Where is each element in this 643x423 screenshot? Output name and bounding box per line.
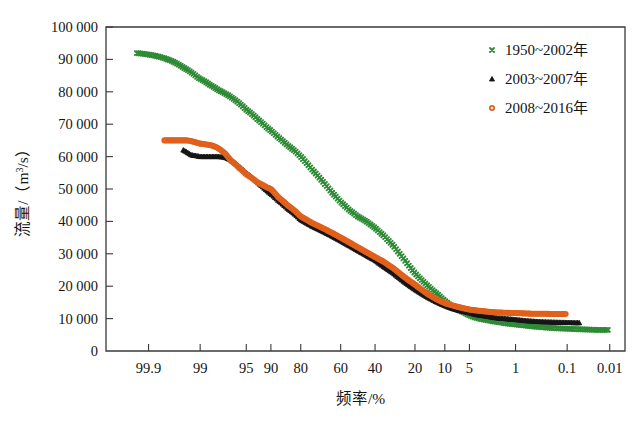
x-tick-label: 0.1 — [558, 360, 576, 376]
x-tick-label: 0.01 — [597, 360, 622, 376]
data-series-layer — [135, 51, 610, 332]
x-axis-title: 频率/% — [336, 390, 385, 407]
y-tick-label: 20 000 — [58, 278, 98, 294]
x-tick-label: 60 — [333, 360, 348, 376]
series-1 — [135, 51, 610, 332]
x-tick-label: 40 — [368, 360, 383, 376]
x-tick-label: 10 — [438, 360, 453, 376]
series-3 — [162, 138, 568, 316]
y-tick-label: 40 000 — [58, 213, 98, 229]
legend-label: 2003~2007年 — [505, 71, 588, 87]
x-tick-label: 80 — [293, 360, 308, 376]
svg-text:流量/（m3/s）: 流量/（m3/s） — [14, 141, 31, 237]
y-tick-label: 80 000 — [58, 84, 98, 100]
x-tick-label: 99.9 — [136, 360, 161, 376]
y-axis-ticks — [106, 27, 113, 319]
y-tick-label: 70 000 — [58, 116, 98, 132]
x-tick-label: 90 — [264, 360, 279, 376]
y-axis-title: 流量/（m3/s） — [14, 141, 31, 237]
data-point-x — [490, 48, 494, 52]
chart-legend: 1950~2002年2003~2007年2008~2016年 — [490, 42, 589, 116]
legend-label: 1950~2002年 — [505, 42, 588, 58]
y-tick-label: 10 000 — [58, 311, 98, 327]
y-axis-tick-labels: 010 00020 00030 00040 00050 00060 00070 … — [51, 19, 98, 359]
y-tick-label: 0 — [91, 343, 98, 359]
x-tick-label: 5 — [466, 360, 473, 376]
chart-figure: 010 00020 00030 00040 00050 00060 00070 … — [0, 0, 643, 423]
y-tick-label: 90 000 — [58, 51, 98, 67]
y-tick-label: 50 000 — [58, 181, 98, 197]
legend-label: 2008~2016年 — [505, 100, 588, 116]
data-point-circle — [490, 106, 494, 110]
x-tick-label: 95 — [239, 360, 254, 376]
x-tick-label: 99 — [193, 360, 208, 376]
legend-item-2[interactable]: 2003~2007年 — [490, 71, 589, 87]
y-tick-label: 100 000 — [51, 19, 98, 35]
x-axis-tick-labels: 99.99995908060402010510.10.01 — [136, 360, 623, 376]
x-tick-label: 20 — [408, 360, 423, 376]
flow-frequency-chart: 010 00020 00030 00040 00050 00060 00070 … — [0, 0, 643, 423]
data-point-triangle — [490, 77, 495, 82]
y-tick-label: 60 000 — [58, 149, 98, 165]
y-tick-label: 30 000 — [58, 246, 98, 262]
x-axis-ticks — [149, 344, 610, 351]
legend-item-1[interactable]: 1950~2002年 — [490, 42, 588, 58]
x-tick-label: 1 — [512, 360, 519, 376]
legend-item-3[interactable]: 2008~2016年 — [490, 100, 588, 116]
